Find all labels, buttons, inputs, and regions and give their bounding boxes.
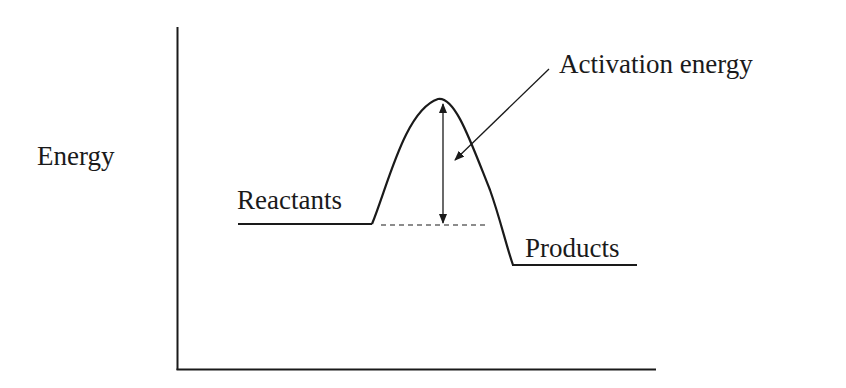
reactants-label: Reactants	[237, 187, 342, 214]
products-label: Products	[525, 235, 620, 262]
activation-energy-pointer-arrow	[455, 69, 549, 160]
y-axis-label: Energy	[37, 143, 114, 170]
activation-energy-label: Activation energy	[559, 51, 753, 78]
